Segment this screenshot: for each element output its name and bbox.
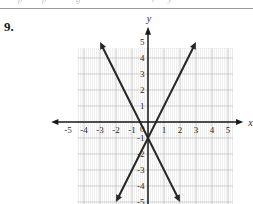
- x-tick-label: -3: [96, 125, 104, 135]
- x-tick-label: -1: [128, 125, 136, 135]
- page-root: p p g t y 9. -5-4-3-2-11234554321-1-2-3-…: [0, 0, 253, 204]
- x-axis-title: x: [247, 117, 253, 128]
- y-tick-label: 1: [140, 101, 145, 111]
- x-axis-arrow-negative: [51, 119, 58, 125]
- graph-svg: -5-4-3-2-11234554321-1-2-3-4-50 xy: [0, 12, 253, 204]
- horizontal-divider: [0, 8, 253, 9]
- x-axis-arrow-positive: [236, 119, 243, 125]
- x-tick-label: -4: [80, 125, 88, 135]
- y-tick-label: -3: [137, 165, 145, 175]
- cropped-running-text: p p g t y: [0, 0, 253, 5]
- y-tick-label: 2: [140, 85, 145, 95]
- y-axis-title: y: [146, 13, 152, 24]
- y-tick-label: -4: [137, 181, 145, 191]
- coordinate-graph: -5-4-3-2-11234554321-1-2-3-4-50 xy: [0, 12, 253, 204]
- y-tick-label: 3: [140, 69, 145, 79]
- x-tick-label: -2: [112, 125, 120, 135]
- x-tick-label: 4: [210, 125, 215, 135]
- x-tick-label: 3: [194, 125, 199, 135]
- y-tick-label: 4: [140, 53, 145, 63]
- y-tick-label: -5: [137, 197, 145, 204]
- cropped-text-fragment: t: [152, 0, 155, 4]
- cropped-text-fragment: p: [18, 0, 23, 4]
- cropped-text-fragment: y: [168, 0, 172, 4]
- x-tick-label: -5: [64, 125, 72, 135]
- x-tick-label: 2: [178, 125, 183, 135]
- y-axis-arrow-positive: [145, 27, 151, 35]
- x-tick-label: 1: [162, 125, 167, 135]
- y-tick-label: -1: [137, 133, 145, 143]
- x-tick-label: 5: [226, 125, 231, 135]
- y-tick-label: 5: [140, 37, 145, 47]
- cropped-text-fragment: g: [76, 0, 81, 4]
- cropped-text-fragment: p: [42, 0, 47, 4]
